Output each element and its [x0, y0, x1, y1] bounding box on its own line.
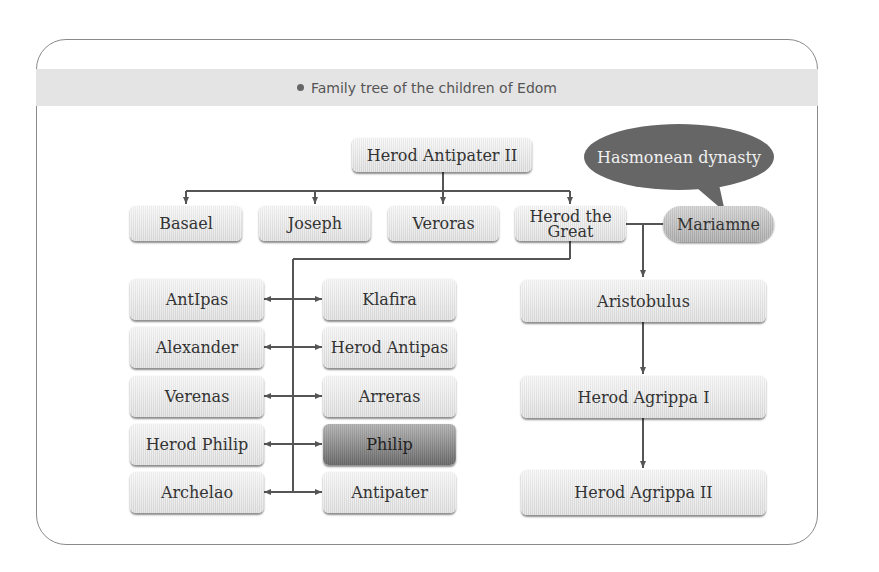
node-herod-the-great: Herod the Great [515, 206, 626, 241]
node-child-left: Herod Philip [130, 424, 264, 465]
node-gen2: Joseph [259, 206, 371, 241]
node-aristobulus: Aristobulus [521, 280, 766, 322]
node-child-right: Antipater [323, 472, 456, 513]
node-child-right: Arreras [323, 376, 456, 417]
node-child-left: Verenas [130, 376, 264, 417]
node-root: Herod Antipater II [352, 138, 532, 172]
node-herod-agrippa-ii: Herod Agrippa II [521, 470, 766, 515]
node-child-right: Herod Antipas [323, 327, 456, 368]
node-mariamne: Mariamne [663, 206, 774, 242]
node-child-right: Klafira [323, 279, 456, 320]
node-child-right-highlighted: Philip [323, 424, 456, 465]
node-gen2: Veroras [388, 206, 499, 241]
node-gen2: Basael [130, 206, 242, 241]
node-child-left: AntIpas [130, 279, 264, 320]
node-herod-agrippa-i: Herod Agrippa I [521, 376, 766, 418]
hasmonean-dynasty-bubble: Hasmonean dynasty [584, 124, 774, 190]
node-child-left: Archelao [130, 472, 264, 513]
node-child-left: Alexander [130, 327, 264, 368]
